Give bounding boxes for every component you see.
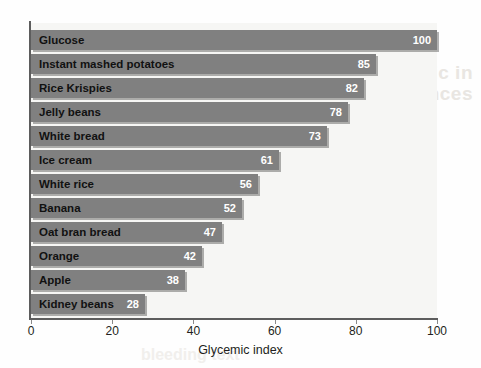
x-axis-tick-label: 20 <box>82 324 142 338</box>
bar-value-label: 28 <box>117 294 139 314</box>
bar-value-label: 73 <box>299 126 321 146</box>
bar-row: Kidney beans28 <box>31 294 437 314</box>
bar-category-label: Ice cream <box>39 150 92 170</box>
bar-category-label: White rice <box>39 174 94 194</box>
bar-category-label: Instant mashed potatoes <box>39 54 174 74</box>
bar-category-label: Banana <box>39 198 81 218</box>
bar-value-label: 85 <box>348 54 370 74</box>
bar-value-label: 78 <box>320 102 342 122</box>
bar-row: Instant mashed potatoes85 <box>31 54 437 74</box>
bar-category-label: Kidney beans <box>39 294 114 314</box>
bar-value-label: 52 <box>214 198 236 218</box>
bar-category-label: Oat bran bread <box>39 222 121 242</box>
bar-value-label: 100 <box>409 30 431 50</box>
bar-row: White rice56 <box>31 174 437 194</box>
bar-row: Glucose100 <box>31 30 437 50</box>
bar-row: Apple38 <box>31 270 437 290</box>
bar-value-label: 82 <box>336 78 358 98</box>
bar-value-label: 61 <box>251 150 273 170</box>
bar-row: White bread73 <box>31 126 437 146</box>
bar-category-label: Orange <box>39 246 79 266</box>
bar-value-label: 38 <box>157 270 179 290</box>
bar <box>31 30 437 50</box>
bar-category-label: Apple <box>39 270 71 290</box>
x-axis-tick-label: 60 <box>245 324 305 338</box>
bar-category-label: Jelly beans <box>39 102 101 122</box>
x-axis-tick-label: 0 <box>1 324 61 338</box>
bar-category-label: Rice Krispies <box>39 78 112 98</box>
bar-row: Jelly beans78 <box>31 102 437 122</box>
bar-row: Orange42 <box>31 246 437 266</box>
x-axis-tick-label: 40 <box>163 324 223 338</box>
x-axis-tick-label: 100 <box>407 324 467 338</box>
bar-row: Banana52 <box>31 198 437 218</box>
bar-category-label: Glucose <box>39 30 84 50</box>
bar-value-label: 47 <box>194 222 216 242</box>
bar-category-label: White bread <box>39 126 105 146</box>
bar-row: Rice Krispies82 <box>31 78 437 98</box>
x-axis-title: Glycemic index <box>0 343 481 357</box>
bar-value-label: 42 <box>174 246 196 266</box>
x-axis-line <box>29 318 438 320</box>
bar-row: Ice cream61 <box>31 150 437 170</box>
glycemic-index-bar-chart: nomic in uences bleeding text Glucose100… <box>0 0 481 368</box>
bar-row: Oat bran bread47 <box>31 222 437 242</box>
bar-value-label: 56 <box>230 174 252 194</box>
x-axis-tick-label: 80 <box>326 324 386 338</box>
